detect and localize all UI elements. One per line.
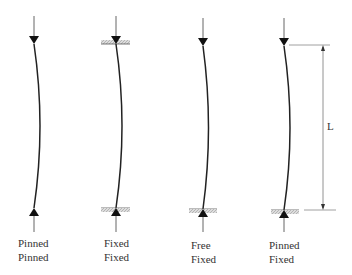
column-4-label: Pinned Fixed [269,238,300,266]
column-free-fixed [189,18,217,232]
reaction-arrow-icon [29,208,39,216]
top-condition: Fixed [104,236,129,250]
load-arrow-icon [29,36,39,44]
bottom-condition: Fixed [104,250,129,264]
bottom-condition: Pinned [18,250,49,264]
bottom-condition: Fixed [269,252,300,266]
column-curve [284,46,290,210]
column-diagram [0,0,352,275]
load-arrow-icon [279,38,289,46]
load-arrow-icon [198,38,208,46]
column-3-label: Free Fixed [191,238,216,266]
bottom-condition: Fixed [191,252,216,266]
length-label: L [327,120,334,132]
column-curve [203,46,209,209]
dimension-arrow-up-icon [321,45,325,51]
column-2-label: Fixed Fixed [104,236,129,264]
top-condition: Free [191,238,216,252]
column-curve [116,44,122,208]
top-condition: Pinned [18,236,49,250]
column-curve [34,44,40,208]
column-1-label: Pinned Pinned [18,236,49,264]
column-pinned-pinned [29,16,40,232]
column-pinned-fixed [271,18,299,232]
top-condition: Pinned [269,238,300,252]
column-fixed-fixed [101,16,130,232]
dimension-arrow-down-icon [321,204,325,210]
